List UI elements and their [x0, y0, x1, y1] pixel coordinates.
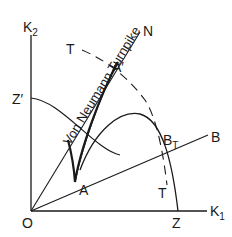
ray-b-label: B	[211, 129, 220, 145]
dashed-t-bottom-label: T	[158, 185, 167, 201]
origin-label: O	[22, 215, 33, 231]
balanced-ray-b	[31, 135, 208, 211]
point-z-prime-label: Z′	[12, 91, 24, 107]
turnpike-diagram: K2 K1 O Z Z′ A A′ BT N B T T Von Neumann…	[0, 0, 232, 237]
point-z-label: Z	[172, 215, 181, 231]
dashed-t-top-label: T	[66, 41, 75, 57]
dashed-t-curve	[82, 50, 167, 185]
point-a-label: A	[79, 182, 89, 198]
k1-axis-label: K1	[210, 203, 225, 222]
ray-n-label: N	[143, 23, 153, 39]
